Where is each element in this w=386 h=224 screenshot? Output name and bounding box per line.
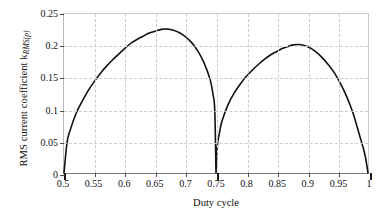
gridline-vertical [125,14,126,173]
x-axis-tick-label: 0.7 [179,178,192,189]
y-axis-tick-mark [60,14,64,15]
x-axis-tick-mark [95,173,96,177]
gridline-vertical [156,14,157,173]
x-axis-tick-mark [186,173,187,177]
gridline-vertical [95,14,96,173]
curve-svg [64,14,368,173]
y-axis-tick-mark [60,143,64,144]
x-axis-tick-mark [309,173,310,177]
x-axis-tick-mark [248,173,249,177]
gridline-vertical [309,14,310,173]
x-axis-tick-mark [125,173,126,177]
y-axis-tick-mark [60,111,64,112]
y-axis-tick-label: 0.05 [41,136,59,147]
x-axis-tick-label: 0.75 [207,178,225,189]
x-axis-tick-mark [339,173,340,177]
y-axis-tick-label: 0.25 [41,8,59,19]
gridline-vertical [248,14,249,173]
chart-figure: RMS current coefficient kRMS(p) 00.050.1… [0,0,386,224]
plot-area [63,13,369,174]
x-axis-title: Duty cycle [63,197,369,208]
x-axis-tick-label: 0.95 [330,178,348,189]
y-axis-tick-label: 0.2 [46,40,59,51]
gridline-vertical [186,14,187,173]
x-axis-tick-label: 0.5 [57,178,70,189]
gridline-vertical [278,14,279,173]
gridline-vertical [339,14,340,173]
gridline-horizontal [64,78,368,79]
y-axis-tick-mark [60,46,64,47]
gridline-horizontal [64,46,368,47]
gridline-horizontal [64,143,368,144]
x-axis-tick-mark [156,173,157,177]
x-axis-tick-label: 1 [367,178,372,189]
x-axis-tick-labels: 0.50.550.60.650.70.750.80.850.90.951 [63,178,369,194]
x-axis-tick-mark [278,173,279,177]
y-axis-tick-mark [60,175,64,176]
gridline-vertical [217,14,218,173]
y-axis-title: RMS current coefficient kRMS(p) [18,30,31,166]
y-axis-tick-label: 0.1 [46,104,59,115]
x-axis-tick-label: 0.9 [302,178,315,189]
gridline-horizontal [64,111,368,112]
x-axis-tick-label: 0.55 [85,178,103,189]
x-axis-tick-label: 0.6 [118,178,131,189]
y-axis-title-main: RMS current coefficient k [18,54,29,166]
x-axis-tick-label: 0.85 [268,178,286,189]
y-axis-tick-label: 0.15 [41,72,59,83]
x-axis-tick-label: 0.65 [146,178,164,189]
data-series-line [64,29,368,173]
y-axis-tick-labels: 00.050.10.150.20.25 [30,13,61,174]
y-axis-tick-mark [60,78,64,79]
x-axis-tick-label: 0.8 [240,178,253,189]
